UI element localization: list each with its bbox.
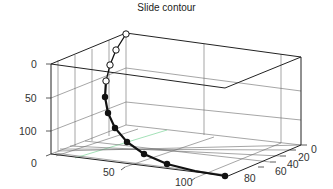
z-tick: 50 [25, 92, 37, 104]
z-axis-labels: 0 50 100 0 [19, 58, 37, 169]
y-tick: 60 [275, 165, 287, 177]
x-axis-labels: 50 100 [103, 166, 193, 188]
filled-markers [102, 94, 228, 179]
y-tick: 40 [287, 158, 299, 170]
slide-contour-curve [102, 31, 228, 179]
z-tick: 100 [19, 125, 37, 137]
y-axis-labels: 0 20 40 60 80 [244, 143, 317, 184]
z-tick: 0 [31, 58, 37, 70]
x-tick: 100 [175, 176, 193, 188]
y-tick: 20 [298, 151, 310, 163]
y-tick: 80 [244, 172, 256, 184]
z-tick: 0 [31, 157, 37, 169]
grid-lines [51, 33, 301, 178]
axes-frame [51, 33, 301, 176]
x-tick: 50 [103, 166, 115, 178]
plot-3d: 0 50 100 0 50 100 0 20 40 60 80 [0, 0, 333, 189]
y-tick: 0 [311, 143, 317, 155]
